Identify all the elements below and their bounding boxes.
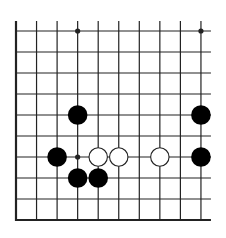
stones: [47, 105, 210, 188]
black-stone: [47, 147, 67, 167]
star-point: [198, 28, 203, 33]
go-board: [0, 0, 226, 238]
black-stone: [68, 168, 88, 188]
grid-lines: [15, 21, 211, 221]
white-stone: [151, 148, 169, 166]
white-stone: [110, 148, 128, 166]
star-point: [75, 154, 80, 159]
black-stone: [68, 105, 88, 125]
white-stone: [89, 148, 107, 166]
black-stone: [191, 147, 211, 167]
black-stone: [88, 168, 108, 188]
star-point: [75, 28, 80, 33]
black-stone: [191, 105, 211, 125]
